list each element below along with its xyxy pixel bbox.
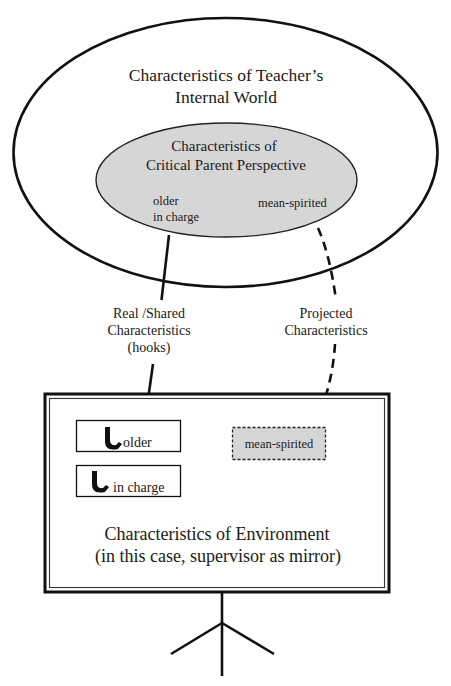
trait-in-charge: in charge <box>153 210 199 224</box>
real-connector-upper <box>162 235 170 300</box>
stand-leg-right <box>222 623 274 654</box>
environment-title-line1: Characteristics of Environment <box>105 524 330 544</box>
stand-leg-left <box>171 623 222 654</box>
trait-mean-spirited: mean-spirited <box>258 196 327 210</box>
projected-connector-upper <box>318 228 336 300</box>
hook-box-older: older <box>77 421 181 452</box>
projected-label-line2: Characteristics <box>284 323 367 338</box>
inner-ellipse-title-line1: Characteristics of <box>171 138 276 154</box>
hook-label-older: older <box>123 435 152 450</box>
tripod-stand <box>171 593 274 676</box>
outer-ellipse-title-line1: Characteristics of Teacher’s <box>129 65 324 85</box>
inner-ellipse-title-line2: Critical Parent Perspective <box>146 157 306 173</box>
real-label-line3: (hooks) <box>128 340 171 356</box>
inner-ellipse-group: Characteristics of Critical Parent Persp… <box>96 123 357 237</box>
projected-connector: Projected Characteristics <box>284 228 367 419</box>
environment-title-line2: (in this case, supervisor as mirror) <box>95 546 341 567</box>
diagram-canvas: Characteristics of Teacher’s Internal Wo… <box>0 0 451 686</box>
trait-older: older <box>153 194 180 208</box>
real-label-line2: Characteristics <box>107 323 190 338</box>
hook-label-in-charge: in charge <box>113 480 164 495</box>
real-label-line1: Real /Shared <box>113 306 185 321</box>
projected-box-label: mean-spirited <box>245 437 314 451</box>
environment-frame: older in charge mean-spirited Characteri… <box>45 394 389 592</box>
outer-ellipse-title-line2: Internal World <box>175 87 277 107</box>
projected-box-mean-spirited: mean-spirited <box>233 428 326 460</box>
projected-label-line1: Projected <box>300 306 353 321</box>
hook-box-in-charge: in charge <box>77 466 181 497</box>
